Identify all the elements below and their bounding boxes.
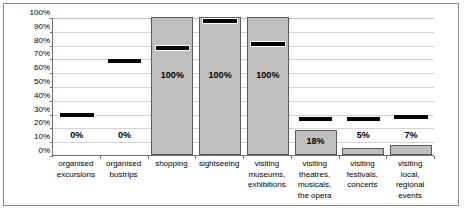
x-axis-category-label: organisedbustrips xyxy=(100,159,148,180)
x-axis-category-label: visitingtheatres,musicals,the opera xyxy=(291,159,339,201)
x-axis-category-label: shopping xyxy=(148,159,196,170)
y-axis-tick-label: 50% xyxy=(12,78,50,86)
x-axis-category-label: visitinglocal,regionalevents xyxy=(386,159,434,201)
y-axis-tick-label: 70% xyxy=(12,50,50,58)
chart-column: 0% xyxy=(56,18,98,155)
x-axis-category-label-line: visiting xyxy=(386,159,434,170)
y-axis-tick-label: 0% xyxy=(12,147,50,155)
marker xyxy=(155,45,190,51)
y-axis-tick-mark xyxy=(50,156,53,157)
x-axis-category-label: sightseeing xyxy=(195,159,243,170)
x-axis-category-label-line: visiting xyxy=(243,159,291,170)
x-axis-category-labels: organisedexcursionsorganisedbustripsshop… xyxy=(52,159,434,211)
chart-frame: 0%10%20%30%40%50%60%70%80%90%100% 0%0%10… xyxy=(3,3,459,206)
x-axis-category-label-line: shopping xyxy=(148,159,196,170)
y-axis-tick-label: 90% xyxy=(12,23,50,31)
bar xyxy=(390,145,432,155)
x-axis-category-label-line: local, xyxy=(386,170,434,181)
bar-value-label: 100% xyxy=(247,70,289,80)
y-axis-tick-mark xyxy=(50,101,53,102)
bar-value-label: 0% xyxy=(104,130,146,140)
x-axis-category-label-line: visiting xyxy=(291,159,339,170)
x-axis-category-label-line: musicals, xyxy=(291,180,339,191)
y-axis-tick-mark xyxy=(50,142,53,143)
y-axis-tick-mark xyxy=(50,59,53,60)
x-axis-category-label-line: theatres, xyxy=(291,170,339,181)
bar-value-label: 5% xyxy=(342,130,384,140)
chart-column: 100% xyxy=(151,18,193,155)
marker xyxy=(107,58,142,64)
bar-value-label: 100% xyxy=(151,70,193,80)
x-axis-category-label-line: regional xyxy=(386,180,434,191)
chart-column: 7% xyxy=(390,18,432,155)
x-axis-category-label-line: excursions xyxy=(52,170,100,181)
chart-column: 100% xyxy=(247,18,289,155)
y-axis-tick-label: 20% xyxy=(12,119,50,127)
bar xyxy=(342,148,384,155)
y-axis-tick-mark xyxy=(50,32,53,33)
x-axis-category-label: visitingfestivals,concerts xyxy=(339,159,387,191)
chart-column: 100% xyxy=(199,18,241,155)
x-axis-category-label-line: organised xyxy=(100,159,148,170)
bar xyxy=(199,17,241,155)
bar-value-label: 100% xyxy=(199,70,241,80)
marker xyxy=(298,116,333,122)
marker xyxy=(250,41,285,47)
y-axis-tick-mark xyxy=(50,128,53,129)
x-axis-category-label-line: concerts xyxy=(339,180,387,191)
y-axis-tick-label: 100% xyxy=(12,9,50,17)
bar xyxy=(247,17,289,155)
chart-column: 0% xyxy=(104,18,146,155)
y-axis-tick-mark xyxy=(50,87,53,88)
x-axis-category-label-line: bustrips xyxy=(100,170,148,181)
x-axis-category-label-line: museums, xyxy=(243,170,291,181)
x-axis-category-label-line: the opera xyxy=(291,191,339,202)
y-axis-tick-label: 10% xyxy=(12,133,50,141)
y-axis-tick-mark xyxy=(50,73,53,74)
x-axis-category-label-line: organised xyxy=(52,159,100,170)
x-axis-category-label: organisedexcursions xyxy=(52,159,100,180)
y-axis-tick-label: 80% xyxy=(12,37,50,45)
x-axis-category-label-line: exhibitions xyxy=(243,180,291,191)
marker xyxy=(393,114,428,120)
bar-value-label: 0% xyxy=(56,130,98,140)
x-axis-category-label-line: events xyxy=(386,191,434,202)
chart-column: 18% xyxy=(295,18,337,155)
bar-value-label: 18% xyxy=(295,136,337,146)
y-axis-tick-mark xyxy=(50,46,53,47)
x-axis-category-label-line: festivals, xyxy=(339,170,387,181)
y-axis-tick-mark xyxy=(50,18,53,19)
plot-area: 0%0%100%100%100%18%5%7% xyxy=(52,18,434,156)
y-axis-tick-label: 30% xyxy=(12,106,50,114)
x-axis-category-label: visitingmuseums,exhibitions xyxy=(243,159,291,191)
chart-column: 5% xyxy=(342,18,384,155)
x-axis-category-label-line: sightseeing xyxy=(195,159,243,170)
y-axis-tick-label: 60% xyxy=(12,64,50,72)
marker xyxy=(202,18,237,24)
y-axis: 0%10%20%30%40%50%60%70%80%90%100% xyxy=(12,13,50,157)
marker xyxy=(346,116,381,122)
x-axis-category-label-line: visiting xyxy=(339,159,387,170)
marker xyxy=(59,112,94,118)
y-axis-tick-label: 40% xyxy=(12,92,50,100)
x-axis-tick-mark xyxy=(434,156,435,159)
bar-value-label: 7% xyxy=(390,130,432,140)
y-axis-tick-mark xyxy=(50,115,53,116)
bar xyxy=(151,17,193,155)
